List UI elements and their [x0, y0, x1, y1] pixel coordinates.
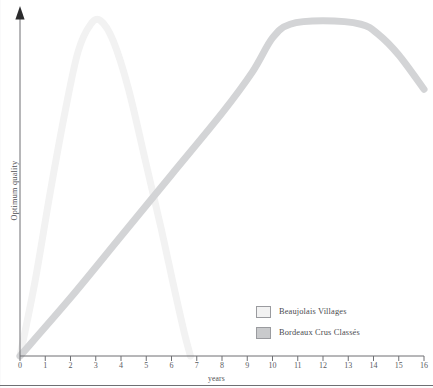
x-axis-tick-label: 15	[395, 361, 403, 370]
x-axis-tick-label: 9	[245, 361, 249, 370]
x-axis-tick-label: 13	[344, 361, 352, 370]
x-axis-tick-label: 14	[370, 361, 378, 370]
legend-swatch	[256, 306, 271, 318]
x-axis-tick-label: 7	[195, 361, 199, 370]
x-axis-tick-label: 10	[269, 361, 277, 370]
legend-item: Beaujolais Villages	[256, 303, 406, 320]
legend-swatch	[256, 327, 271, 339]
x-axis-tick-label: 0	[18, 361, 22, 370]
footer-rule	[0, 385, 433, 386]
x-axis-tick-label: 11	[294, 361, 302, 370]
chart-legend: Beaujolais VillagesBordeaux Crus Classés	[256, 303, 406, 345]
legend-label: Beaujolais Villages	[279, 307, 347, 316]
x-axis-tick-label: 4	[119, 361, 123, 370]
x-axis-tick-label: 3	[94, 361, 98, 370]
x-axis-tick-label: 6	[170, 361, 174, 370]
x-axis-tick-labels: 012345678910111213141516	[0, 361, 433, 375]
wine-aging-chart: Optimum quality 012345678910111213141516…	[0, 0, 433, 388]
x-axis-tick-label: 5	[144, 361, 148, 370]
x-axis-title: years	[0, 374, 433, 383]
x-axis-tick-label: 12	[319, 361, 327, 370]
legend-item: Bordeaux Crus Classés	[256, 324, 406, 341]
x-axis-tick-label: 16	[420, 361, 428, 370]
y-axis-arrow-icon	[15, 6, 24, 20]
legend-label: Bordeaux Crus Classés	[279, 328, 360, 337]
x-axis-tick-label: 8	[220, 361, 224, 370]
y-axis-title: Optimum quality	[10, 131, 19, 251]
x-axis-tick-label: 1	[43, 361, 47, 370]
x-axis-tick-label: 2	[69, 361, 73, 370]
